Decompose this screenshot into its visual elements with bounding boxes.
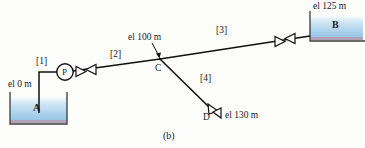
- pipe-4-path: [160, 59, 212, 110]
- pipe-3-label: [3]: [216, 26, 227, 36]
- pipe-2-line: [73, 59, 160, 77]
- reservoir-b-name: B: [332, 20, 339, 30]
- figure-caption: (b): [163, 131, 175, 141]
- node-c-name: C: [155, 64, 161, 74]
- node-d-name: D: [203, 113, 210, 123]
- leader-el-100-arrowhead: [156, 53, 161, 59]
- pipe-2-label: [2]: [110, 50, 121, 60]
- reservoir-b-elevation-label: el 125 m: [313, 2, 346, 12]
- junction-node-c: [159, 58, 162, 61]
- diagram-canvas: [0, 0, 365, 148]
- pipe-4-line: [160, 59, 221, 118]
- figure-piping-network: el 0 m A el 125 m B P [1] [2] [3] [4] el…: [0, 0, 365, 148]
- reservoir-a-base-band: [10, 120, 67, 123]
- pipe-3-line: [160, 34, 310, 60]
- pipe-1-label: [1]: [36, 57, 47, 67]
- node-d-elevation-label: el 130 m: [225, 111, 258, 121]
- valve-icon-pipe-2: [76, 65, 96, 77]
- reservoir-a-elevation-label: el 0 m: [8, 80, 32, 90]
- leader-line-el-100: [152, 43, 161, 59]
- node-c-elevation-label: el 100 m: [128, 33, 161, 43]
- reservoir-b-base-band: [310, 37, 363, 40]
- pipe-4-label: [4]: [200, 74, 211, 84]
- reservoir-a-name: A: [33, 103, 40, 113]
- pump-label: P: [62, 68, 67, 77]
